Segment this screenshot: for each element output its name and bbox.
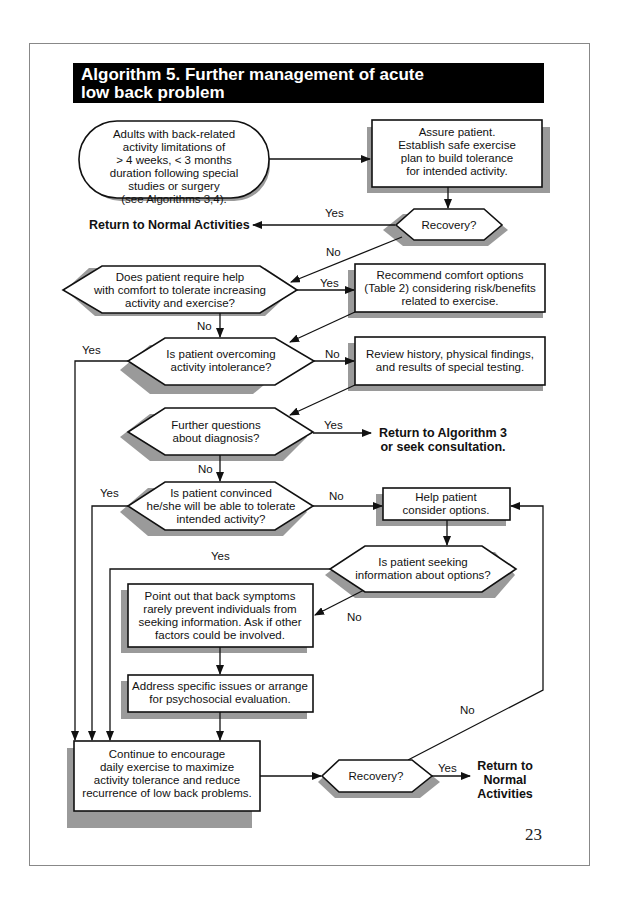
edge-label-seeking-no: No (347, 611, 362, 623)
svg-text:activity intolerance?: activity intolerance? (171, 361, 272, 373)
svg-text:factors could be involved.: factors could be involved. (155, 629, 285, 641)
edge-label-seeking-yes: Yes (211, 550, 230, 562)
edge-label-recovery1-no: No (326, 246, 341, 258)
svg-text:and results of special testing: and results of special testing. (376, 361, 524, 373)
svg-text:plan to build tolerance: plan to build tolerance (401, 152, 514, 164)
node-point-out-box: Point out that back symptoms rarely prev… (128, 584, 313, 647)
node-seeking-information-decision: Is patient seeking information about opt… (330, 546, 516, 592)
node-overcoming-intolerance-decision: Is patient overcoming activity intoleran… (128, 338, 314, 385)
svg-text:Recommend comfort options: Recommend comfort options (376, 269, 523, 281)
svg-text:daily exercise to maximize: daily exercise to maximize (100, 761, 234, 773)
svg-text:Does patient require help: Does patient require help (116, 271, 245, 283)
svg-text:Recovery?: Recovery? (349, 770, 404, 782)
edge-label-recovery2-yes: Yes (438, 762, 457, 774)
svg-text:recurrence of low back problem: recurrence of low back problems. (82, 787, 251, 799)
edge-label-overcoming-no: No (325, 348, 340, 360)
svg-text:studies or surgery: studies or surgery (128, 180, 220, 192)
svg-text:Is patient overcoming: Is patient overcoming (166, 348, 275, 360)
svg-text:seeking information. Ask if ot: seeking information. Ask if other (139, 616, 302, 628)
node-start-terminal: Adults with back-related activity limita… (79, 121, 269, 205)
title-line-2: low back problem (81, 83, 225, 102)
outcome-return-normal-activities-2: Return to Normal Activities (477, 759, 533, 801)
outcome-return-normal-activities-1: Return to Normal Activities (89, 218, 250, 232)
edge-label-comfort-yes: Yes (320, 277, 339, 289)
svg-text:activity and exercise?: activity and exercise? (125, 297, 235, 309)
node-review-history-box: Review history, physical findings, and r… (355, 337, 545, 385)
svg-text:Return to: Return to (477, 759, 533, 773)
node-address-issues-box: Address specific issues or arrange for p… (128, 675, 313, 712)
edge-label-recovery1-yes: Yes (325, 207, 344, 219)
page-number: 23 (525, 825, 542, 844)
title-line-1: Algorithm 5. Further management of acute (81, 65, 424, 84)
svg-text:duration following special: duration following special (110, 167, 239, 179)
node-recommend-comfort-box: Recommend comfort options (Table 2) cons… (355, 264, 545, 312)
node-assure-patient-box: Assure patient. Establish safe exercise … (372, 120, 542, 187)
svg-text:Continue to encourage: Continue to encourage (109, 748, 225, 760)
svg-text:Help patient: Help patient (415, 491, 477, 503)
node-continue-exercise-box: Continue to encourage daily exercise to … (74, 741, 260, 811)
svg-text:with comfort to tolerate incre: with comfort to tolerate increasing (93, 284, 266, 296)
edge-label-further-yes: Yes (324, 419, 343, 431)
svg-text:Address specific issues or arr: Address specific issues or arrange (132, 680, 308, 692)
svg-text:intended activity?: intended activity? (177, 513, 266, 525)
svg-text:related to exercise.: related to exercise. (401, 295, 498, 307)
node-help-consider-options-box: Help patient consider options. (383, 488, 510, 520)
svg-text:activity limitations of: activity limitations of (123, 141, 226, 153)
svg-text:Review history, physical findi: Review history, physical findings, (366, 348, 534, 360)
svg-text:Recovery?: Recovery? (422, 219, 477, 231)
svg-text:Normal: Normal (483, 773, 526, 787)
node-comfort-help-decision: Does patient require help with comfort t… (63, 266, 297, 313)
outcome-return-algorithm-3: Return to Algorithm 3 or seek consultati… (379, 426, 507, 454)
svg-text:or seek consultation.: or seek consultation. (380, 440, 505, 454)
node-recovery-decision-2: Recovery? (322, 760, 432, 792)
node-convinced-decision: Is patient convinced he/she will be able… (128, 482, 313, 530)
svg-text:> 4 weeks, < 3 months: > 4 weeks, < 3 months (116, 154, 232, 166)
svg-text:Establish safe exercise: Establish safe exercise (398, 139, 516, 151)
svg-text:Adults with back-related: Adults with back-related (113, 128, 235, 140)
edge-label-comfort-no: No (197, 320, 212, 332)
svg-text:activity tolerance and reduce: activity tolerance and reduce (94, 774, 240, 786)
edge-label-convinced-no: No (329, 490, 344, 502)
svg-text:Is patient seeking: Is patient seeking (378, 556, 468, 568)
title-bar: Algorithm 5. Further management of acute… (73, 63, 544, 103)
svg-text:Assure patient.: Assure patient. (419, 126, 496, 138)
node-recovery-decision-1: Recovery? (396, 209, 502, 240)
edge-label-convinced-yes: Yes (100, 487, 119, 499)
edge-label-overcoming-yes: Yes (82, 344, 101, 356)
svg-text:Is patient convinced: Is patient convinced (170, 487, 272, 499)
svg-text:consider options.: consider options. (403, 504, 490, 516)
edge-label-recovery2-no: No (460, 704, 475, 716)
svg-text:for intended activity.: for intended activity. (406, 165, 507, 177)
svg-text:Activities: Activities (477, 787, 533, 801)
svg-text:about diagnosis?: about diagnosis? (173, 432, 260, 444)
svg-text:(Table 2) considering risk/ben: (Table 2) considering risk/benefits (364, 282, 536, 294)
svg-text:Return to Algorithm 3: Return to Algorithm 3 (379, 426, 507, 440)
svg-text:he/she will be able to tolerat: he/she will be able to tolerate (147, 500, 296, 512)
svg-text:Point out that back symptoms: Point out that back symptoms (145, 590, 296, 602)
svg-text:rarely prevent individuals fro: rarely prevent individuals from (143, 603, 296, 615)
svg-text:Further questions: Further questions (171, 419, 261, 431)
svg-text:information about options?: information about options? (355, 569, 491, 581)
document-page: Algorithm 5. Further management of acute… (0, 0, 619, 901)
node-further-questions-decision: Further questions about diagnosis? (128, 408, 313, 455)
edge-label-further-no: No (198, 463, 213, 475)
svg-text:(see Algorithms 3,4).: (see Algorithms 3,4). (121, 193, 226, 205)
svg-text:for psychosocial evaluation.: for psychosocial evaluation. (149, 693, 290, 705)
